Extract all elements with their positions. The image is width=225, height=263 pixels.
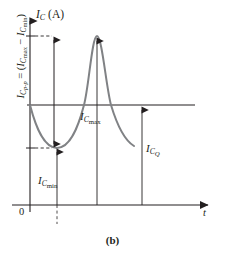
pp-symbol: I <box>15 95 26 99</box>
ic-q-sub2: Q <box>155 150 160 157</box>
pp-sub: C <box>19 90 28 95</box>
pp-close: ) <box>15 14 26 18</box>
waveform-graphic <box>0 0 225 263</box>
ic-max-label: ICmax <box>80 111 101 125</box>
pp-max-symbol: I <box>15 63 26 67</box>
waveform-curve <box>30 36 134 148</box>
figure-caption: (b) <box>0 235 225 246</box>
ic-q-label: ICQ <box>146 143 160 157</box>
origin-label: 0 <box>19 207 24 218</box>
pp-max-sub2: max <box>21 47 28 58</box>
pp-minus: − <box>15 36 26 47</box>
pp-min-symbol: I <box>15 32 26 36</box>
y-axis-unit: (A) <box>48 8 64 20</box>
pp-min-sub2: min <box>21 17 28 27</box>
pp-max-sub: C <box>19 58 28 63</box>
y-axis-subscript: C <box>40 13 45 22</box>
ic-max-sub2: max <box>89 118 101 125</box>
pp-min-sub: C <box>19 28 28 33</box>
x-axis-label: t <box>203 208 206 219</box>
pp-equals: = ( <box>15 67 26 82</box>
ic-min-sub2: min <box>47 182 58 189</box>
y-axis-title: IC (A) <box>36 9 64 22</box>
ic-min-label: ICmin <box>38 175 57 189</box>
figure-container: IC (A) ICp-p = (ICmax − ICmin) ICmax ICm… <box>0 0 225 263</box>
peak-to-peak-label: ICp-p = (ICmax − ICmin) <box>16 14 29 99</box>
pp-sub2: p-p <box>21 81 28 90</box>
